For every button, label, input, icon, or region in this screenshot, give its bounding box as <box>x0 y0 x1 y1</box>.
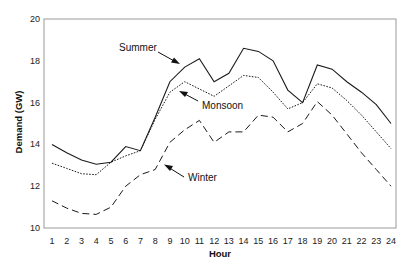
x-tick-label: 18 <box>298 236 308 246</box>
x-tick-label: 16 <box>268 236 278 246</box>
x-tick-label: 7 <box>138 236 143 246</box>
x-tick-label: 5 <box>108 236 113 246</box>
x-tick-label: 1 <box>49 236 54 246</box>
x-axis-title: Hour <box>209 248 231 259</box>
x-tick-label: 19 <box>312 236 322 246</box>
y-tick-label: 16 <box>30 98 40 108</box>
x-tick-label: 22 <box>357 236 367 246</box>
annotation-monsoon: Monsoon <box>202 100 243 111</box>
x-tick-label: 10 <box>180 236 190 246</box>
annotation-winter: Winter <box>188 172 218 183</box>
y-tick-label: 12 <box>30 181 40 191</box>
x-tick-label: 24 <box>386 236 396 246</box>
x-tick-label: 3 <box>79 236 84 246</box>
x-axis-ticks: 123456789101112131415161718192021222324 <box>49 236 396 246</box>
x-tick-label: 8 <box>153 236 158 246</box>
x-tick-label: 21 <box>342 236 352 246</box>
x-tick-label: 6 <box>123 236 128 246</box>
x-tick-label: 12 <box>209 236 219 246</box>
x-tick-label: 13 <box>224 236 234 246</box>
x-tick-label: 17 <box>283 236 293 246</box>
y-tick-label: 18 <box>30 56 40 66</box>
x-tick-label: 15 <box>253 236 263 246</box>
y-tick-label: 14 <box>30 139 40 149</box>
plot-area <box>44 19 396 228</box>
x-tick-label: 20 <box>327 236 337 246</box>
x-tick-label: 14 <box>239 236 249 246</box>
x-tick-label: 2 <box>64 236 69 246</box>
y-axis-ticks: 101214161820 <box>30 14 40 233</box>
y-axis-title: Demand (GW) <box>13 91 24 154</box>
y-tick-label: 20 <box>30 14 40 24</box>
x-tick-label: 23 <box>371 236 381 246</box>
annotation-summer: Summer <box>119 42 157 53</box>
x-tick-label: 11 <box>195 236 204 246</box>
demand-line-chart: 101214161820 123456789101112131415161718… <box>0 0 411 272</box>
y-tick-label: 10 <box>30 223 40 233</box>
x-tick-label: 4 <box>94 236 99 246</box>
x-tick-label: 9 <box>167 236 172 246</box>
